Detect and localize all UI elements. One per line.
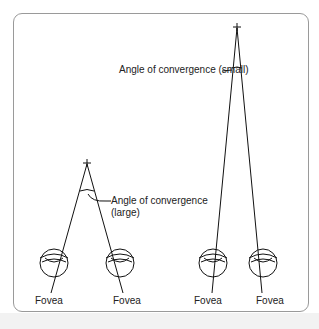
large-angle-label-line1: Angle of convergence <box>111 195 208 206</box>
left-eye-sightline-near <box>51 164 87 293</box>
eye-icon <box>249 249 277 277</box>
convergence-diagram: Angle of convergence (small) Angle of co… <box>0 0 319 329</box>
right-eye-sightline-near <box>87 164 123 293</box>
fovea-label: Fovea <box>35 295 63 306</box>
eye-icon <box>40 249 68 277</box>
fovea-label: Fovea <box>194 295 222 306</box>
eye-icon <box>199 249 227 277</box>
large-angle-arc <box>80 190 94 192</box>
eye-icon <box>106 249 134 277</box>
large-angle-leader <box>88 194 111 201</box>
small-angle-label: Angle of convergence (small) <box>119 64 249 75</box>
fovea-label: Fovea <box>256 295 284 306</box>
fovea-label: Fovea <box>113 295 141 306</box>
large-angle-label-line2: (large) <box>111 207 140 218</box>
